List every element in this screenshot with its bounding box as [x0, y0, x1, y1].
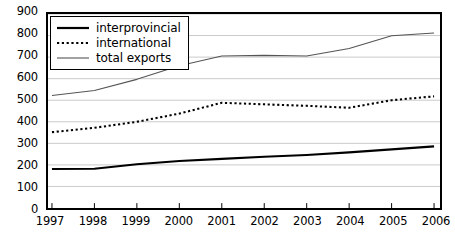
x-tick-label: 2001 [199, 216, 245, 228]
x-tick-label: 2006 [413, 216, 455, 228]
y-tick-label: 800 [0, 28, 38, 40]
x-tick-label: 1998 [70, 216, 116, 228]
x-tick-label: 2000 [156, 216, 202, 228]
y-tick-label: 500 [0, 94, 38, 106]
y-tick-label: 700 [0, 50, 38, 62]
x-tick-label: 2005 [370, 216, 416, 228]
x-tick-label: 2003 [284, 216, 330, 228]
legend-label-total-exports: total exports [96, 52, 171, 64]
y-tick-label: 400 [0, 116, 38, 128]
y-tick-label: 100 [0, 182, 38, 194]
series-line [52, 96, 434, 132]
y-tick-label: 600 [0, 72, 38, 84]
y-tick-label: 900 [0, 6, 38, 18]
legend-label-international: international [96, 37, 171, 49]
legend: interprovincial international total expo… [50, 16, 189, 70]
x-tick-label: 2002 [241, 216, 287, 228]
legend-item-international: international [56, 35, 181, 50]
x-tick-label: 1999 [113, 216, 159, 228]
series-line [52, 146, 434, 169]
solid-thin-line-swatch-icon [56, 52, 90, 64]
legend-label-interprovincial: interprovincial [96, 22, 181, 34]
y-tick-label: 200 [0, 160, 38, 172]
legend-item-total-exports: total exports [56, 50, 181, 65]
dotted-line-swatch-icon [56, 37, 90, 49]
solid-thick-line-swatch-icon [56, 22, 90, 34]
y-tick-label: 300 [0, 138, 38, 150]
legend-item-interprovincial: interprovincial [56, 20, 181, 35]
y-tick-label: 0 [0, 204, 38, 216]
x-tick-label: 2004 [327, 216, 373, 228]
x-tick-label: 1997 [27, 216, 73, 228]
